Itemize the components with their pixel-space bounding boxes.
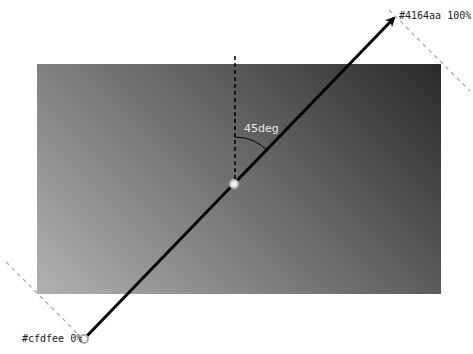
start-perpendicular-line: [6, 262, 84, 340]
end-perpendicular-line: [389, 10, 470, 91]
diagram-overlay: [0, 0, 473, 354]
angle-label: 45deg: [244, 122, 279, 135]
center-point: [230, 180, 238, 188]
angle-arc: [235, 137, 268, 151]
gradient-line-arrow: [84, 18, 394, 339]
start-stop-label: #cfdfee 0%: [22, 333, 82, 344]
gradient-diagram: 45deg #4164aa 100% #cfdfee 0%: [0, 0, 473, 354]
end-stop-label: #4164aa 100%: [399, 10, 471, 21]
